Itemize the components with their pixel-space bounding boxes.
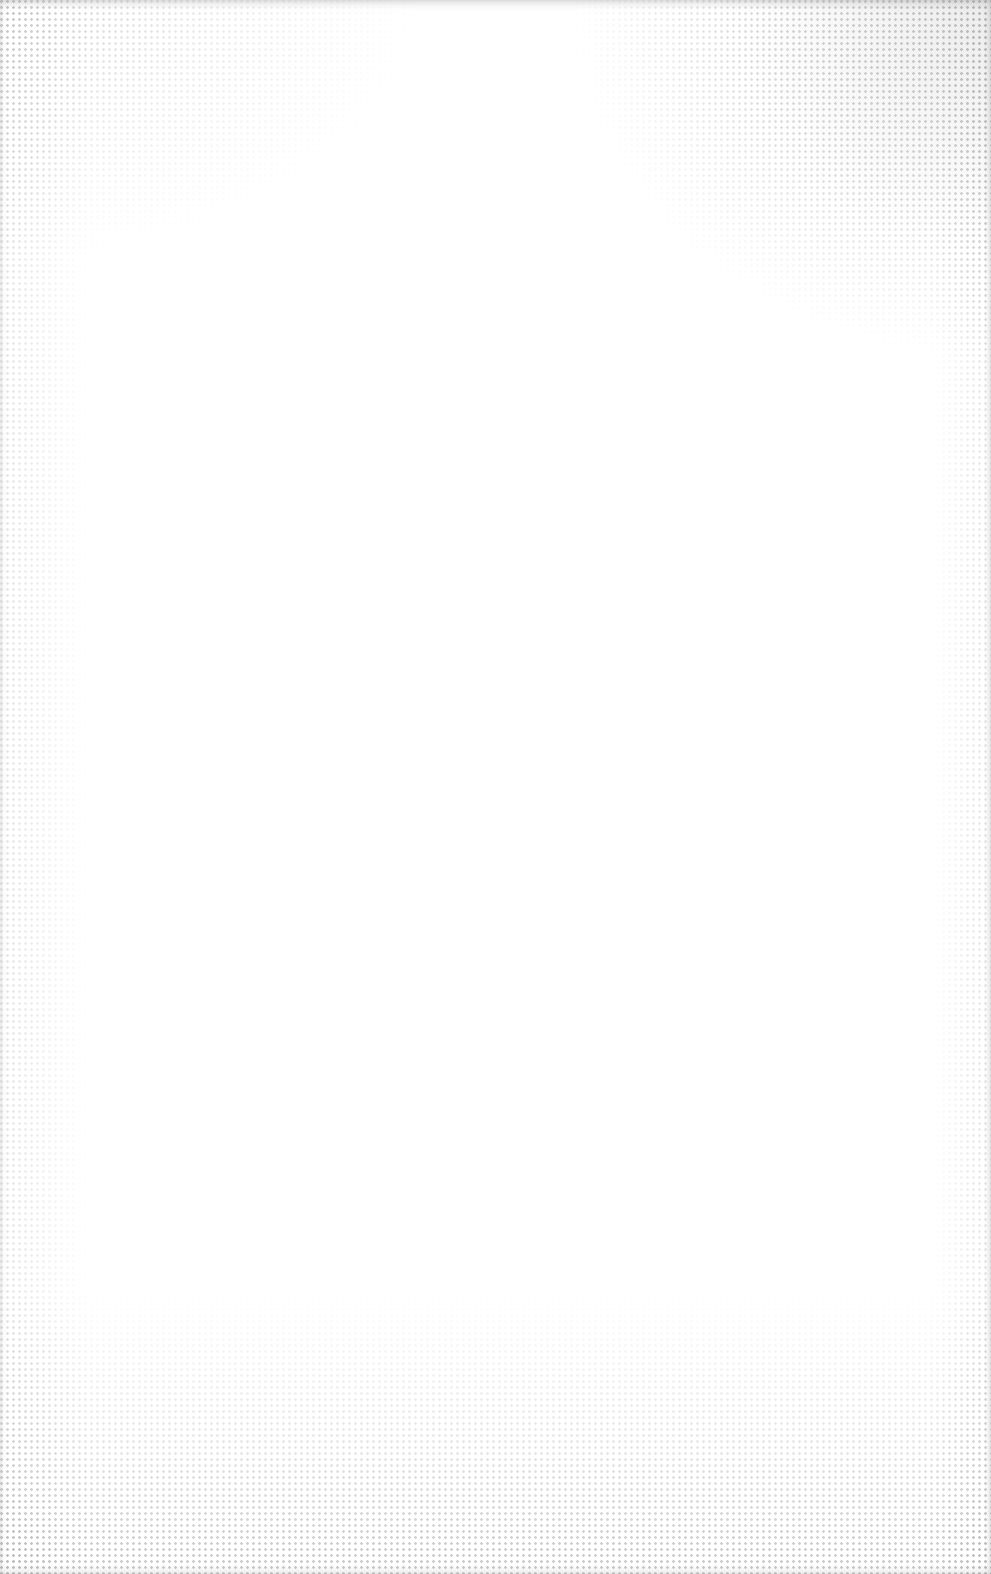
texture-bottom	[0, 0, 991, 1574]
blank-textured-surface	[0, 0, 991, 1574]
